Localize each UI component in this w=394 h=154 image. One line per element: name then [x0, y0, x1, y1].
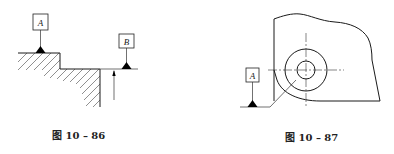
drawing-canvas: A B 图 10 – 86 A 图 10 – 87	[0, 0, 394, 154]
figure-caption: 图 10 – 86	[52, 130, 105, 141]
datum-triangle-icon	[248, 100, 258, 107]
datum-a-letter: A	[37, 18, 44, 28]
datum-triangle-icon	[122, 62, 132, 69]
datum-b-letter: B	[124, 37, 130, 47]
datum-a-symbol: A	[33, 14, 48, 53]
datum-triangle-icon	[36, 46, 46, 53]
dimension-arrow	[112, 70, 115, 100]
figure-10-86: A B 图 10 – 86	[10, 14, 138, 141]
leader-line	[240, 80, 296, 107]
part-outline	[274, 14, 380, 101]
figure-caption: 图 10 – 87	[285, 132, 338, 143]
datum-a-symbol: A	[246, 68, 259, 107]
figure-10-87: A 图 10 – 87	[240, 14, 380, 143]
datum-b-symbol: B	[119, 34, 134, 69]
datum-a-letter: A	[249, 71, 256, 81]
